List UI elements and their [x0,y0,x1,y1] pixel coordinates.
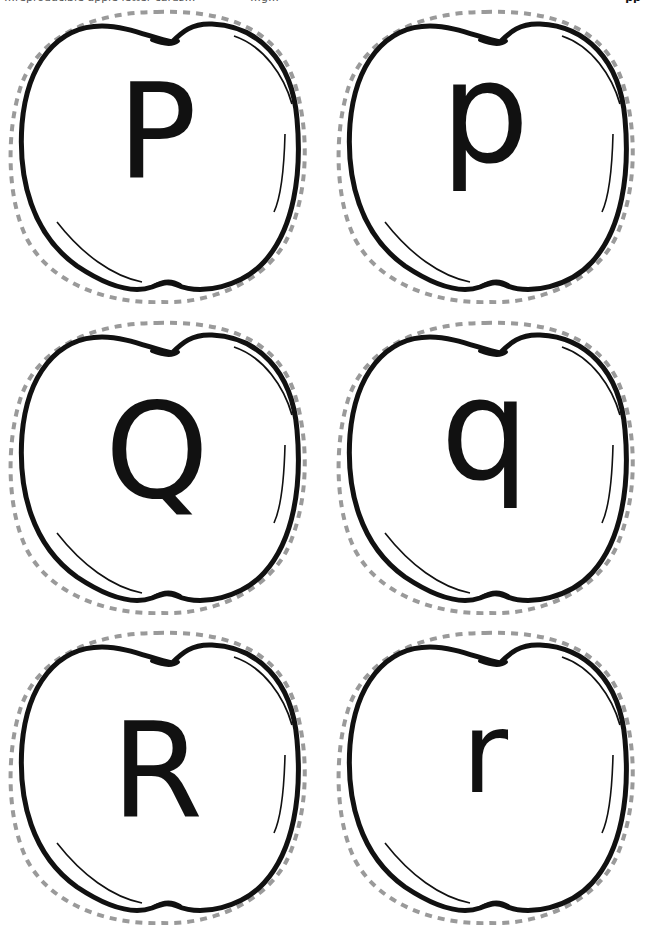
card-letter: r [330,697,640,809]
card-letter: p [330,44,640,184]
apple-card-q: q [330,315,640,615]
apple-card-R: R [2,625,312,925]
apple-card-Q: Q [2,315,312,615]
apple-card-r: r [330,625,640,925]
apple-card-p: p [330,4,640,304]
card-letter: Q [2,385,312,517]
card-letter: P [2,66,312,198]
card-letter: q [330,361,640,501]
card-letter: R [2,705,312,837]
apple-card-P: P [2,4,312,304]
